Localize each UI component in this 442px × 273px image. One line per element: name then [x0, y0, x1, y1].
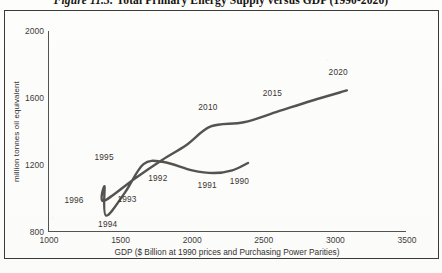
data-label-2010: 2010 [198, 102, 217, 112]
y-axis-tick-1200: 1200 [25, 160, 44, 170]
data-label-1992: 1992 [148, 173, 167, 183]
data-label-1991: 1991 [198, 180, 217, 190]
chart-series-0 [102, 90, 347, 215]
data-label-1996: 1996 [64, 195, 83, 205]
x-axis-tick-3000: 3000 [326, 235, 345, 245]
x-axis-tick-2500: 2500 [254, 235, 273, 245]
y-axis-tick-2000: 2000 [25, 26, 44, 36]
chart-line-svg [49, 31, 407, 232]
data-label-1995: 1995 [94, 152, 113, 162]
y-axis-tick-1600: 1600 [25, 93, 44, 103]
figure-number: Figure 11.3: [54, 0, 114, 6]
x-axis-tick-1500: 1500 [111, 235, 130, 245]
x-axis-tick-2000: 2000 [183, 235, 202, 245]
chart-plot-area: 8001200160020001000150020002500300035001… [48, 31, 406, 232]
data-label-2015: 2015 [263, 88, 282, 98]
x-axis-title: GDP ($ Billion at 1990 prices and Purcha… [48, 247, 406, 257]
figure-title: Total Primary Energy Supply versus GDP (… [117, 0, 389, 6]
data-label-1993: 1993 [117, 194, 136, 204]
x-axis-tick-3500: 3500 [398, 235, 417, 245]
y-axis-title: million tonnes oil equivalent [10, 31, 23, 232]
data-label-1990: 1990 [230, 176, 249, 186]
data-label-2020: 2020 [329, 67, 348, 77]
x-axis-tick-1000: 1000 [40, 235, 59, 245]
data-label-1994: 1994 [98, 219, 117, 229]
figure-caption: Figure 11.3: Total Primary Energy Supply… [0, 0, 442, 9]
